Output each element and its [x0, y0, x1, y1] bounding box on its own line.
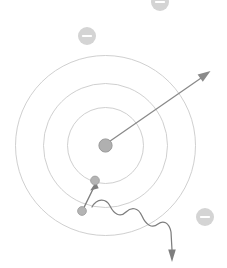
- atomic-model-diagram: [0, 0, 227, 268]
- charge-badge-top: [151, 0, 169, 11]
- radius-vector-group: [108, 71, 211, 143]
- radius-vector-arrow-head: [198, 71, 211, 82]
- nucleus-group: [99, 139, 112, 152]
- photon-arrow-head: [168, 250, 176, 263]
- electron-origin-dot: [78, 207, 87, 216]
- charge-badge-lower-right: [196, 208, 214, 226]
- charge-badge-upper-left: [78, 27, 96, 45]
- nucleus-circle: [99, 139, 112, 152]
- orbit-electrons-group: [78, 176, 100, 215]
- diagram-canvas: [0, 0, 227, 268]
- electron-jump-group: [84, 182, 99, 209]
- electron-destination-dot: [91, 176, 100, 185]
